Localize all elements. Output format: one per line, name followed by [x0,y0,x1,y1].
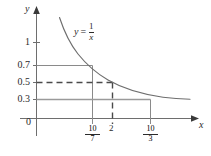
x-tick-10-over-3-denominator: 3 [143,135,158,143]
figure-root: y x 0 1 0.7 0.5 0.3 10 7 2 10 3 y= 1 x [0,0,211,156]
x-tick-label-2: 2 [109,124,114,133]
equation-numerator: 1 [89,22,94,31]
y-axis-arrow-icon [33,6,40,14]
x-tick-10-over-3-numerator: 10 [143,125,158,133]
y-axis-label: y [25,4,29,14]
y-tick-label-0_3: 0.3 [4,94,30,104]
x-tick-10-over-7-denominator: 7 [85,135,100,143]
equation-fraction: 1 x [89,22,94,43]
y-tick-label-0_5: 0.5 [4,77,30,87]
plot-canvas [0,0,211,156]
x-axis-arrow-icon [191,115,199,121]
equation-lhs: y [74,26,78,37]
x-tick-label-10-over-7: 10 7 [85,125,100,144]
curve-equation-label: y= 1 x [74,22,94,43]
y-tick-label-1: 1 [8,37,30,47]
origin-label: 0 [26,117,31,127]
equation-equals-sign: = [80,26,86,37]
y-tick-label-0_7: 0.7 [4,60,30,70]
x-tick-label-10-over-3: 10 3 [143,125,158,144]
x-axis-label: x [199,120,203,130]
x-tick-10-over-7-numerator: 10 [85,125,100,133]
equation-denominator: x [89,33,94,42]
